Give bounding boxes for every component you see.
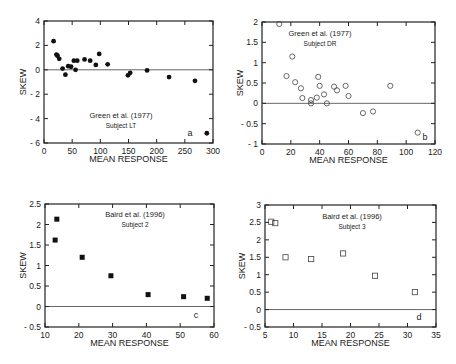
panel-letter: a — [187, 128, 192, 138]
data-point — [167, 75, 172, 80]
y-tick-label: - 0.5 — [24, 322, 41, 332]
subject-annotation: Subject 3 — [338, 223, 365, 231]
data-point — [80, 255, 85, 260]
y-tick-label: 2 — [253, 17, 258, 27]
chart-panel-b: 020406080100120- 1- 0.500.511.52MEAN RES… — [235, 17, 442, 165]
data-point — [73, 67, 78, 72]
x-tick-label: 60 — [209, 330, 219, 340]
data-point — [284, 73, 289, 78]
data-point — [321, 92, 326, 97]
y-tick-label: 0.5 — [249, 287, 261, 297]
data-point — [105, 62, 110, 67]
data-point — [57, 56, 62, 61]
y-tick-label: - 1 — [248, 139, 258, 149]
x-tick-label: 120 — [428, 147, 442, 157]
panel-letter: d — [416, 312, 421, 322]
y-tick-label: - 6 — [30, 138, 40, 148]
chart-panel-c: 102030405060- 0.500.511.522.5MEAN RESPON… — [18, 199, 219, 348]
figure-four-panel-skew: 050100150200250300- 6- 4- 2024MEAN RESPO… — [0, 0, 456, 364]
y-tick-label: 0.5 — [246, 78, 258, 88]
y-tick-label: 1.5 — [249, 252, 261, 262]
panel-letter: b — [422, 132, 427, 142]
data-point — [93, 63, 98, 68]
y-tick-label: - 2 — [30, 89, 40, 99]
plot-frame — [262, 22, 435, 144]
data-point — [205, 296, 210, 301]
data-point — [290, 54, 295, 59]
data-point — [269, 219, 274, 224]
x-axis-label: MEAN RESPONSE — [311, 338, 390, 348]
data-point — [388, 83, 393, 88]
x-tick-label: 5 — [263, 330, 268, 340]
x-axis-label: MEAN RESPONSE — [89, 154, 168, 164]
x-axis-label: MEAN RESPONSE — [90, 338, 169, 348]
subject-annotation: Subject 2 — [121, 221, 148, 229]
y-axis-label: SKEW — [235, 69, 245, 96]
y-axis-label: SKEW — [18, 252, 28, 279]
y-tick-label: 2 — [256, 235, 261, 245]
y-tick-label: 0 — [35, 65, 40, 75]
data-point — [273, 221, 278, 226]
source-annotation: Green et al. (1977) — [90, 111, 153, 120]
x-tick-label: 10 — [289, 330, 299, 340]
chart-panel-d: 5101520253035- 0.500.511.522.53MEAN RESP… — [237, 200, 441, 348]
data-point — [346, 93, 351, 98]
y-tick-label: - 0.5 — [244, 322, 261, 332]
data-point — [298, 86, 303, 91]
y-axis-label: SKEW — [18, 68, 28, 95]
y-tick-label: - 0.5 — [241, 119, 258, 129]
data-point — [317, 83, 322, 88]
panel-letter: c — [194, 310, 199, 320]
x-tick-label: 300 — [206, 146, 220, 156]
y-tick-label: 4 — [35, 16, 40, 26]
x-tick-label: 20 — [74, 330, 84, 340]
y-tick-label: 2 — [36, 220, 41, 230]
data-point — [343, 83, 348, 88]
data-point — [53, 238, 58, 243]
x-tick-label: 100 — [399, 147, 413, 157]
x-tick-label: 20 — [286, 147, 296, 157]
data-point — [69, 64, 74, 69]
data-point — [145, 68, 150, 73]
data-point — [372, 273, 377, 278]
y-tick-label: 0 — [253, 98, 258, 108]
data-point — [331, 84, 336, 89]
x-tick-label: 35 — [431, 330, 441, 340]
x-tick-label: 30 — [403, 330, 413, 340]
y-tick-label: 0 — [36, 302, 41, 312]
data-point — [314, 95, 319, 100]
source-annotation: Baird et al. (1996) — [105, 210, 165, 219]
x-tick-label: 0 — [260, 147, 265, 157]
y-tick-label: 2.5 — [29, 199, 41, 209]
data-point — [128, 70, 133, 75]
data-point — [415, 130, 420, 135]
x-tick-label: 50 — [175, 330, 185, 340]
data-point — [60, 66, 65, 71]
x-tick-label: 10 — [40, 330, 50, 340]
chart-panel-a: 050100150200250300- 6- 4- 2024MEAN RESPO… — [18, 16, 220, 164]
subject-annotation: Subject DR — [304, 40, 337, 48]
data-point — [340, 251, 345, 256]
data-point — [97, 52, 102, 57]
y-tick-label: 0.5 — [29, 281, 41, 291]
data-point — [293, 80, 298, 85]
y-tick-label: 1 — [256, 270, 261, 280]
data-point — [283, 255, 288, 260]
data-point — [88, 58, 93, 63]
data-point — [75, 58, 80, 63]
y-tick-label: 1.5 — [246, 37, 258, 47]
data-point — [63, 72, 68, 77]
x-tick-label: 50 — [67, 146, 77, 156]
data-point — [300, 95, 305, 100]
data-point — [51, 39, 56, 44]
y-tick-label: 2 — [35, 40, 40, 50]
x-tick-label: 250 — [178, 146, 192, 156]
y-tick-label: 0 — [256, 305, 261, 315]
y-tick-label: - 4 — [30, 114, 40, 124]
data-point — [146, 292, 151, 297]
y-tick-label: 1 — [36, 261, 41, 271]
data-point — [193, 78, 198, 83]
data-point — [82, 57, 87, 62]
data-point — [334, 88, 339, 93]
data-point — [412, 290, 417, 295]
